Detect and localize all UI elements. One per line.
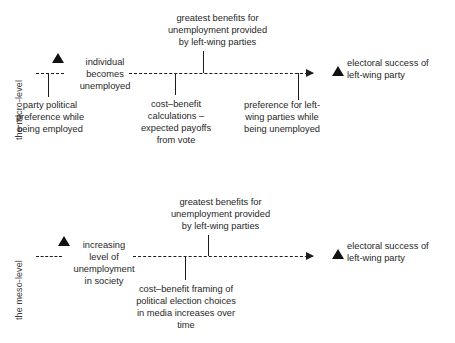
micro-annotation-party-political: party political preference while being e… bbox=[0, 99, 102, 135]
meso-flow-line-segment-2 bbox=[133, 256, 313, 257]
micro-flow-arrowhead bbox=[306, 69, 314, 77]
micro-end-triangle-icon bbox=[332, 66, 344, 76]
micro-tick-preference-left bbox=[298, 73, 299, 100]
micro-annotation-greatest-benefits: greatest benefits for unemployment provi… bbox=[145, 12, 290, 48]
meso-flow-line-segment-1 bbox=[36, 256, 62, 257]
micro-annotation-preference-left: preference for left- wing parties while … bbox=[226, 99, 338, 135]
micro-tick-greatest-benefits bbox=[203, 51, 204, 73]
meso-annotation-cost-benefit-framing: cost–benefit framing of political electi… bbox=[122, 283, 250, 331]
micro-flow-line-segment-1 bbox=[36, 73, 64, 74]
meso-end-node-label: electoral success of left-wing party bbox=[347, 240, 453, 264]
micro-tick-cost-benefit bbox=[175, 73, 176, 95]
micro-start-triangle-icon bbox=[52, 53, 64, 63]
micro-flow-line-segment-2 bbox=[129, 73, 313, 74]
meso-flow-arrowhead bbox=[306, 252, 314, 260]
micro-end-node-label: electoral success of left-wing party bbox=[347, 57, 453, 81]
micro-annotation-cost-benefit: cost–benefit calculations – expected pay… bbox=[126, 98, 226, 146]
axis-label-meso-level: the meso-level bbox=[14, 260, 24, 320]
meso-tick-greatest-benefits bbox=[208, 235, 209, 256]
meso-annotation-greatest-benefits: greatest benefits for unemployment provi… bbox=[148, 196, 293, 232]
meso-tick-cost-benefit-framing bbox=[185, 256, 186, 280]
meso-end-triangle-icon bbox=[332, 249, 344, 259]
diagram-canvas: the micro-level individual becomes unemp… bbox=[0, 0, 455, 343]
micro-start-node-label: individual becomes unemployed bbox=[66, 56, 144, 92]
meso-start-node-label: increasing level of unemployment in soci… bbox=[62, 239, 146, 287]
micro-tick-party-political bbox=[48, 73, 49, 97]
